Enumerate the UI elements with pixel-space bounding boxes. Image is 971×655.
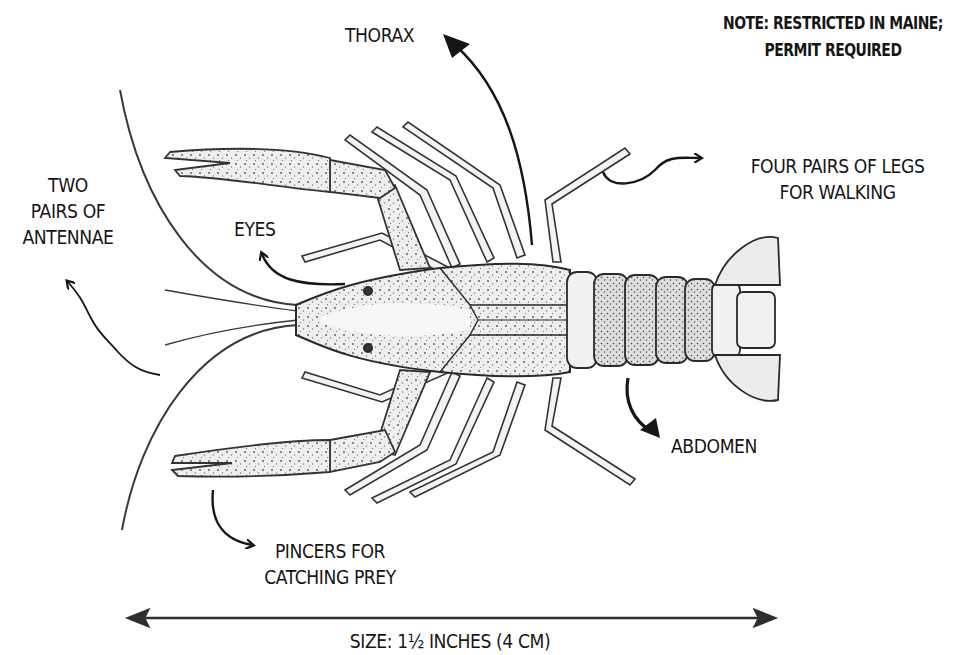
legs-line-1: FOUR PAIRS OF LEGS [724,153,952,179]
pincers-line-1: PINCERS FOR [253,538,408,564]
crayfish-illustration [0,0,971,655]
label-eyes: EYES [234,216,275,242]
label-abdomen: ABDOMEN [671,433,757,459]
note-restriction: NOTE: RESTRICTED IN MAINE; PERMIT REQUIR… [714,10,952,64]
size-scale-bar [128,610,775,626]
antennae-line-3: ANTENNAE [0,224,137,250]
note-line-1: NOTE: RESTRICTED IN MAINE; [714,10,952,37]
pincers-line-2: CATCHING PREY [253,564,408,590]
note-line-2: PERMIT REQUIRED [714,37,952,64]
legs-line-2: FOR WALKING [724,179,952,205]
walking-legs-lower [302,365,635,503]
walking-legs-upper [302,122,630,275]
label-size: SIZE: 1½ INCHES (4 CM) [321,628,579,654]
crayfish-diagram: THORAX NOTE: RESTRICTED IN MAINE; PERMIT… [0,0,971,655]
label-pincers: PINCERS FOR CATCHING PREY [253,538,408,590]
label-legs: FOUR PAIRS OF LEGS FOR WALKING [724,153,952,205]
label-thorax: THORAX [345,22,414,48]
carapace [296,264,570,377]
antennae-line-1: TWO [0,172,137,198]
abdomen-segments [567,272,775,368]
label-antennae: TWO PAIRS OF ANTENNAE [0,172,137,250]
claw-lower [172,370,430,477]
antennae-line-2: PAIRS OF [0,198,137,224]
